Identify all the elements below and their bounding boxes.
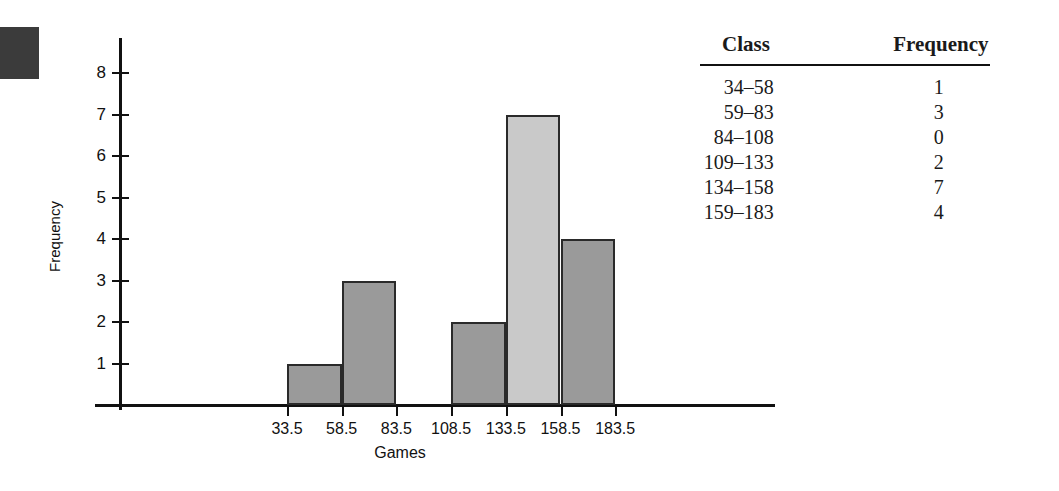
y-tick-3 [112,280,129,282]
table-cell-frequency: 1 [862,65,990,100]
y-tick-label-6: 6 [80,147,106,164]
table-header-frequency: Frequency [862,30,990,65]
x-tick-133.5 [506,404,508,416]
y-tick-8 [112,72,129,74]
table-cell-class: 109–133 [700,150,862,175]
bar-158.5-183.5 [561,239,616,405]
x-axis-line [95,404,775,407]
y-tick-4 [112,238,129,240]
y-axis-line [119,38,122,410]
y-tick-label-3: 3 [80,272,106,289]
x-axis-title: Games [330,444,470,462]
y-tick-label-8: 8 [80,64,106,81]
bar-108.5-133.5 [451,322,506,405]
table-cell-frequency: 3 [862,100,990,125]
y-tick-1 [112,363,129,365]
y-tick-2 [112,321,129,323]
table-cell-class: 84–108 [700,125,862,150]
x-tick-58.5 [342,404,344,416]
table-row: 134–1587 [700,175,990,200]
table-header-class: Class [700,30,862,65]
table-cell-class: 59–83 [700,100,862,125]
x-tick-label-133.5: 133.5 [476,420,536,438]
y-tick-7 [112,114,129,116]
x-tick-183.5 [615,404,617,416]
x-tick-83.5 [396,404,398,416]
table-cell-frequency: 4 [862,200,990,225]
table-row: 159–1834 [700,200,990,225]
x-tick-label-33.5: 33.5 [257,420,317,438]
table-row: 59–833 [700,100,990,125]
table-cell-class: 34–58 [700,65,862,100]
histogram-chart: 12345678 33.558.583.5108.5133.5158.5183.… [0,0,700,491]
x-tick-label-108.5: 108.5 [421,420,481,438]
y-axis-title: Frequency [46,177,63,297]
x-tick-label-158.5: 158.5 [531,420,591,438]
table-row: 34–581 [700,65,990,100]
table-header-row: Class Frequency [700,30,990,65]
table-cell-frequency: 2 [862,150,990,175]
x-tick-33.5 [287,404,289,416]
x-tick-158.5 [561,404,563,416]
y-tick-label-4: 4 [80,230,106,247]
table-cell-frequency: 7 [862,175,990,200]
table-row: 109–1332 [700,150,990,175]
table-cell-frequency: 0 [862,125,990,150]
x-tick-108.5 [451,404,453,416]
y-tick-5 [112,197,129,199]
y-tick-label-2: 2 [80,313,106,330]
table-row: 84–1080 [700,125,990,150]
bar-58.5-83.5 [342,281,397,406]
y-tick-6 [112,155,129,157]
y-tick-label-7: 7 [80,106,106,123]
bar-133.5-158.5 [506,115,561,406]
table-cell-class: 134–158 [700,175,862,200]
frequency-distribution-table: Class Frequency 34–58159–83384–1080109–1… [700,30,1000,225]
y-tick-label-1: 1 [80,355,106,372]
x-tick-label-183.5: 183.5 [585,420,645,438]
bar-33.5-58.5 [287,364,342,406]
x-tick-label-58.5: 58.5 [312,420,372,438]
y-tick-label-5: 5 [80,189,106,206]
x-tick-label-83.5: 83.5 [366,420,426,438]
table-cell-class: 159–183 [700,200,862,225]
